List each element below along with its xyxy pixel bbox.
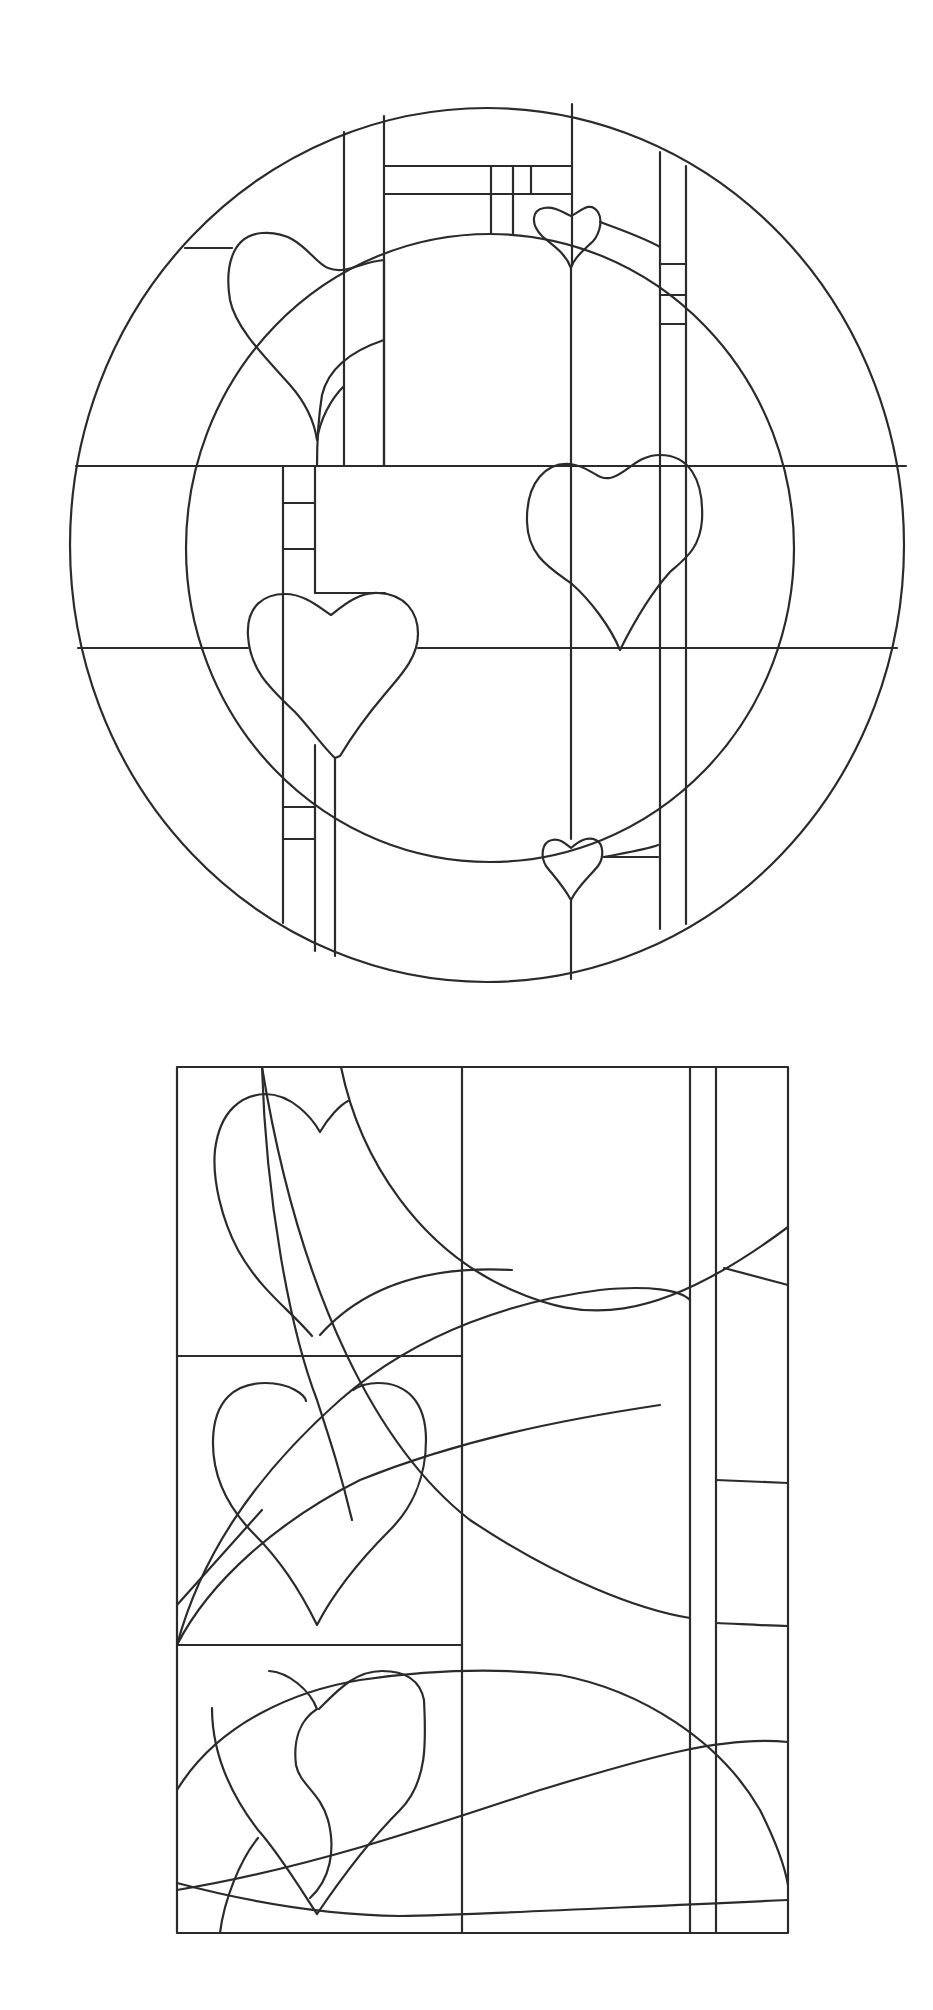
inner-ellipse xyxy=(186,234,794,862)
leading-line xyxy=(177,1671,788,1885)
round-panel xyxy=(70,104,906,982)
rect-panel xyxy=(177,1067,788,1933)
heart-small-bottom-icon xyxy=(543,839,603,900)
round-panel-hearts xyxy=(228,207,702,900)
heart-left-middle-fill xyxy=(248,593,418,758)
leading-line xyxy=(716,1623,788,1626)
leading-line xyxy=(177,1741,788,1890)
leading-line xyxy=(724,1268,788,1285)
leading-line xyxy=(177,1288,690,1645)
leading-line xyxy=(317,340,384,466)
leading-line xyxy=(220,1838,258,1933)
leading-line xyxy=(262,1067,690,1618)
heart-right-icon xyxy=(527,455,702,650)
leading-line xyxy=(177,1510,262,1605)
pattern-page: circular stained glass pattern rectangul… xyxy=(0,0,933,2010)
outer-circle xyxy=(70,108,904,982)
leading-curve xyxy=(604,845,658,857)
round-panel-curves xyxy=(600,222,660,857)
heart-right-fill xyxy=(527,455,702,650)
leading-curve xyxy=(600,222,660,247)
rect-panel-leading-lines xyxy=(177,1067,788,1933)
rect-frame xyxy=(177,1067,788,1933)
stained-glass-drawing xyxy=(0,0,933,2010)
heart-left-middle-icon xyxy=(248,593,418,758)
leading-line xyxy=(320,1269,512,1335)
heart-rect-top-icon xyxy=(214,1094,348,1336)
leading-line xyxy=(716,1480,788,1483)
leading-line xyxy=(177,1883,788,1916)
heart-small-top-icon xyxy=(534,207,600,268)
leading-line xyxy=(341,1067,788,1310)
